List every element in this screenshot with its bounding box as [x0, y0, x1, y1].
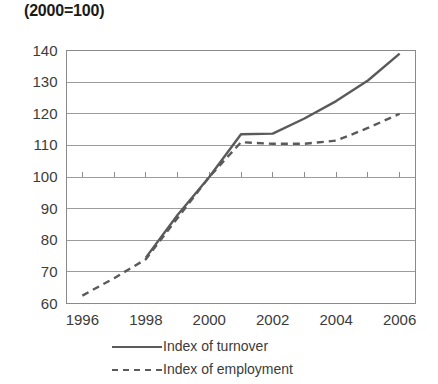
series-line-index-of-turnover [146, 54, 400, 258]
legend-label-index-of-turnover: Index of turnover [163, 338, 268, 354]
x-axis-label-1996: 1996 [66, 311, 99, 328]
y-axis-tick-labels: 60708090100110120130140 [32, 42, 57, 312]
y-axis-label-130: 130 [32, 73, 57, 90]
x-tick-marks [82, 172, 399, 177]
x-axis-tick-labels: 199619982000200220042006 [66, 311, 417, 328]
y-axis-label-90: 90 [41, 200, 58, 217]
series-line-index-of-employment [82, 114, 399, 296]
y-axis-label-60: 60 [41, 295, 58, 312]
y-axis-label-140: 140 [32, 42, 57, 59]
x-axis-label-2004: 2004 [319, 311, 352, 328]
x-axis-label-2000: 2000 [193, 311, 226, 328]
x-axis-label-1998: 1998 [129, 311, 162, 328]
x-axis-label-2002: 2002 [256, 311, 289, 328]
y-axis-label-120: 120 [32, 105, 57, 122]
chart-legend: Index of turnoverIndex of employment [112, 338, 293, 377]
line-chart: 60708090100110120130140 1996199820002002… [0, 0, 438, 384]
chart-container: (2000=100) 60708090100110120130140 19961… [0, 0, 438, 384]
y-axis-label-100: 100 [32, 168, 57, 185]
y-axis-label-70: 70 [41, 263, 58, 280]
x-axis-label-2006: 2006 [383, 311, 416, 328]
legend-label-index-of-employment: Index of employment [163, 361, 293, 377]
y-axis-label-80: 80 [41, 231, 58, 248]
y-axis-label-110: 110 [34, 136, 58, 153]
